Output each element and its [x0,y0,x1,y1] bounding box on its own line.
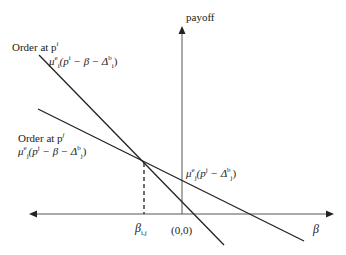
close-paren: ) [83,145,87,157]
close-paren: ) [233,167,237,179]
order-j-line [38,109,304,241]
x-axis-right-arrow-icon [326,211,334,218]
order-i-text: Order at p [12,41,57,53]
order-i-expression: μei(pi − β − Δbi) [49,55,117,67]
order-i-sup: i [57,40,59,48]
order-j-text: Order at p [18,132,63,144]
order-j-label: Order at pj [18,132,65,144]
payoff-diagram: payoff Order at pi μei(pi − β − Δbi) Ord… [0,0,346,255]
expr-tail: − β − Δ [40,145,78,157]
intersection-label: βi,j [135,222,147,234]
expr-body: (p [197,167,206,179]
intercept-j-expression: μej(pj − Δbj) [186,167,236,179]
close-paren: ) [114,55,118,67]
expr-tail: − β − Δ [71,55,109,67]
y-axis-arrow-icon [179,26,186,34]
order-i-label: Order at pi [12,41,59,53]
beta-symbol: β [313,222,319,236]
expr-body: (p [60,55,69,67]
origin-label: (0,0) [171,224,192,236]
x-axis-left-arrow-icon [29,211,37,218]
order-j-expression: μej(pj − β − Δbj) [18,145,86,157]
y-axis-label: payoff [186,11,215,23]
diagram-canvas [0,0,346,255]
intersection-sub: i,j [141,229,147,237]
expr-body: (p [29,145,38,157]
order-j-sup: j [63,131,65,139]
x-axis-label: β [313,223,319,235]
expr-tail: − Δ [208,167,227,179]
